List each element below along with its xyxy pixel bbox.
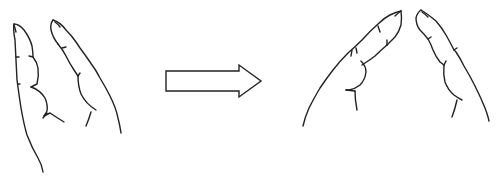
before-left-finger bbox=[14, 24, 64, 172]
right-arrow-icon bbox=[166, 65, 261, 97]
before-right-finger bbox=[51, 20, 121, 133]
after-right-finger bbox=[416, 10, 489, 121]
before-hand-drawing bbox=[14, 20, 121, 172]
finger-movement-diagram: Two fingers pointing upward, slightly ap… bbox=[0, 0, 502, 183]
after-left-finger bbox=[303, 11, 402, 126]
after-hand-drawing bbox=[303, 10, 489, 126]
